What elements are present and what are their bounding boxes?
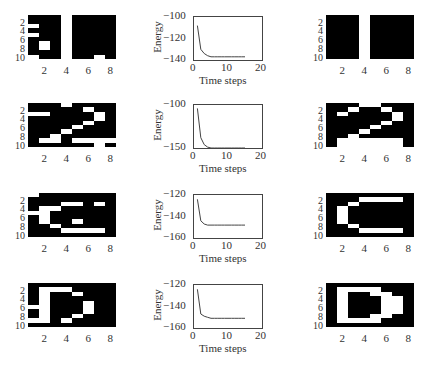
pixel-cell [348, 233, 359, 237]
pixel-cell [359, 55, 370, 59]
pixel-cell [359, 143, 370, 147]
grid-xtick-label: 4 [362, 65, 368, 76]
recalled-pattern-grid [326, 283, 414, 327]
pixel-cell [326, 55, 337, 59]
pixel-cell [39, 323, 50, 327]
pixel-cell [28, 143, 39, 147]
grid-xtick-label: 4 [362, 333, 368, 344]
pixel-cell [50, 323, 61, 327]
energy-ytick-label: −120 [163, 188, 186, 199]
grid-ytick-label: 10 [313, 52, 323, 63]
pixel-cell [381, 323, 392, 327]
energy-ylabel: Energy [151, 195, 163, 235]
pixel-cell [105, 143, 116, 147]
grid-xtick-label: 4 [64, 243, 70, 254]
pixel-cell [83, 143, 94, 147]
pixel-cell [61, 143, 72, 147]
grid-xtick-label: 6 [384, 243, 390, 254]
energy-ylabel: Energy [151, 285, 163, 325]
pixel-cell [72, 323, 83, 327]
input-pattern-grid [28, 15, 116, 59]
grid-xtick-label: 4 [362, 243, 368, 254]
grid-xtick-label: 6 [384, 65, 390, 76]
energy-xtick-label: 20 [255, 62, 266, 73]
grid-xtick-label: 6 [86, 65, 92, 76]
grid-ytick-label: 10 [15, 320, 25, 331]
energy-plot-axes [193, 284, 263, 329]
pixel-cell [105, 55, 116, 59]
energy-xtick-label: 20 [255, 330, 266, 341]
energy-ytick-label: −150 [163, 141, 186, 152]
energy-plot-axes [193, 104, 263, 149]
pixel-cell [61, 233, 72, 237]
grid-xtick-label: 8 [108, 153, 114, 164]
pixel-cell [392, 55, 403, 59]
pixel-cell [370, 323, 381, 327]
energy-ytick-label: −120 [163, 32, 186, 43]
grid-ytick-label: 10 [15, 52, 25, 63]
grid-xtick-label: 2 [42, 65, 48, 76]
grid-xtick-label: 2 [42, 153, 48, 164]
pixel-cell [94, 55, 105, 59]
pixel-cell [403, 55, 414, 59]
pixel-cell [348, 143, 359, 147]
grid-xtick-label: 8 [108, 65, 114, 76]
grid-ytick-label: 10 [313, 140, 323, 151]
grid-xtick-label: 2 [42, 243, 48, 254]
energy-plot-axes [193, 16, 263, 61]
pixel-cell [28, 233, 39, 237]
pixel-cell [39, 143, 50, 147]
pixel-cell [381, 55, 392, 59]
recalled-pattern-grid [326, 193, 414, 237]
grid-xtick-label: 8 [406, 65, 412, 76]
pixel-cell [370, 143, 381, 147]
grid-xtick-label: 8 [406, 243, 412, 254]
pixel-cell [94, 233, 105, 237]
energy-curve [194, 105, 262, 148]
pixel-cell [326, 323, 337, 327]
energy-ytick-label: −160 [163, 321, 186, 332]
pixel-cell [392, 323, 403, 327]
energy-xtick-label: 10 [221, 330, 232, 341]
pixel-cell [392, 143, 403, 147]
energy-plot-axes [193, 194, 263, 239]
pixel-cell [72, 143, 83, 147]
pixel-cell [72, 233, 83, 237]
grid-xtick-label: 8 [406, 153, 412, 164]
grid-xtick-label: 8 [406, 333, 412, 344]
pixel-cell [403, 323, 414, 327]
pixel-cell [370, 55, 381, 59]
energy-ytick-label: −160 [163, 231, 186, 242]
pixel-cell [337, 143, 348, 147]
pixel-cell [105, 323, 116, 327]
grid-xtick-label: 8 [108, 333, 114, 344]
pixel-cell [381, 233, 392, 237]
grid-xtick-label: 2 [340, 153, 346, 164]
pixel-cell [348, 323, 359, 327]
energy-xtick-label: 0 [190, 240, 196, 251]
recalled-pattern-grid [326, 103, 414, 147]
pixel-cell [403, 233, 414, 237]
energy-xtick-label: 10 [221, 150, 232, 161]
pixel-cell [50, 233, 61, 237]
grid-ytick-label: 10 [313, 230, 323, 241]
grid-xtick-label: 4 [64, 333, 70, 344]
grid-xtick-label: 2 [340, 333, 346, 344]
recalled-pattern-grid [326, 15, 414, 59]
energy-ytick-label: −140 [163, 53, 186, 64]
pixel-cell [39, 55, 50, 59]
pixel-cell [370, 233, 381, 237]
energy-ylabel: Energy [151, 17, 163, 57]
grid-xtick-label: 6 [86, 153, 92, 164]
energy-xlabel: Time steps [199, 74, 247, 86]
pixel-cell [94, 323, 105, 327]
energy-xtick-label: 10 [221, 240, 232, 251]
input-pattern-grid [28, 193, 116, 237]
grid-xtick-label: 4 [362, 153, 368, 164]
pixel-cell [28, 323, 39, 327]
energy-xtick-label: 0 [190, 62, 196, 73]
grid-xtick-label: 2 [340, 243, 346, 254]
pixel-cell [50, 55, 61, 59]
pixel-cell [61, 323, 72, 327]
energy-ylabel: Energy [151, 105, 163, 145]
